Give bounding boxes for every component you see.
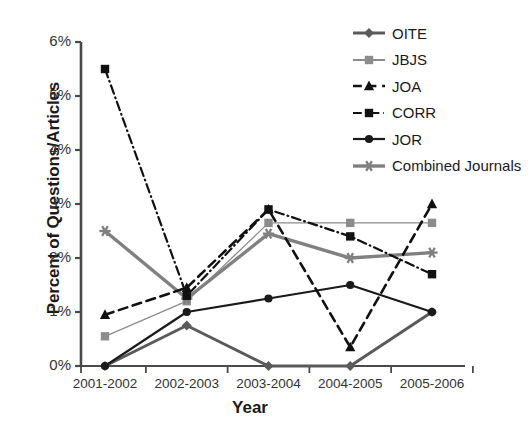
legend-key-asterisk-icon — [352, 158, 386, 174]
legend-label: JOR — [392, 131, 422, 148]
legend-key-square-icon — [352, 52, 386, 68]
data-point-square — [346, 232, 354, 240]
data-point-square — [365, 109, 373, 117]
data-point-circle — [428, 308, 436, 316]
data-point-square — [101, 332, 109, 340]
data-point-square — [101, 65, 109, 73]
data-point-diamond — [264, 361, 274, 371]
data-point-triangle — [427, 199, 437, 209]
legend-key-square-icon — [352, 105, 386, 121]
legend-key-circle-icon — [352, 131, 386, 147]
data-point-circle — [346, 281, 354, 289]
data-point-circle — [365, 135, 373, 143]
data-point-square — [264, 219, 272, 227]
data-point-diamond — [182, 321, 192, 331]
legend-label: CORR — [392, 104, 436, 121]
data-point-circle — [183, 308, 191, 316]
legend-item[interactable]: JOA — [352, 73, 530, 100]
series-combined-journals — [99, 226, 437, 303]
legend-label: Combined Journals — [392, 157, 521, 174]
data-point-circle — [264, 294, 272, 302]
legend-label: JOA — [392, 78, 421, 95]
legend-label: OITE — [392, 25, 427, 42]
legend-item[interactable]: OITE — [352, 20, 530, 47]
series-line — [105, 312, 432, 366]
data-point-square — [183, 292, 191, 300]
legend-item[interactable]: JBJS — [352, 47, 530, 74]
data-point-circle — [101, 362, 109, 370]
legend-key-triangle-icon — [352, 78, 386, 94]
data-point-square — [346, 219, 354, 227]
legend-key-diamond-icon — [352, 25, 386, 41]
series-jor — [101, 281, 436, 370]
data-point-diamond — [364, 28, 374, 38]
series-line — [105, 223, 432, 336]
chart-container: Percent of Questions/Articles Year 0%1%2… — [0, 0, 530, 434]
data-point-square — [428, 270, 436, 278]
legend-label: JBJS — [392, 51, 427, 68]
image-border-bottom — [0, 424, 530, 434]
legend-item[interactable]: CORR — [352, 100, 530, 127]
legend-item[interactable]: Combined Journals — [352, 153, 530, 180]
chart-legend: OITEJBJSJOACORRJORCombined Journals — [352, 20, 530, 179]
data-point-square — [365, 56, 373, 64]
series-jbjs — [101, 219, 436, 341]
legend-item[interactable]: JOR — [352, 126, 530, 153]
data-point-square — [428, 219, 436, 227]
